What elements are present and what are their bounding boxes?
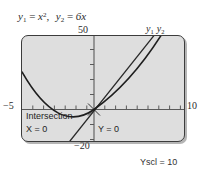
calculator-screen: Intersection X = 0 Y = 0 — [21, 35, 185, 142]
curve-y1 — [22, 36, 161, 117]
ymax-label: 50 — [78, 25, 88, 35]
x-value-readout: X = 0 — [26, 125, 47, 134]
y-value-readout: Y = 0 — [98, 125, 119, 134]
figure-container: y1 = x2, y2 = 6x 50 −20 −5 10 Yscl = 10 … — [0, 0, 204, 176]
y-axis-ticks — [90, 50, 94, 140]
xmin-label: −5 — [3, 101, 14, 111]
legend-y1-subscript: 1 — [150, 28, 153, 35]
y2-subscript: 2 — [61, 16, 65, 24]
legend-y2-subscript: 2 — [161, 28, 164, 35]
x-axis-ticks — [33, 106, 181, 110]
equals-sign-2: = — [67, 10, 73, 22]
equation-separator: , — [47, 10, 51, 22]
y1-subscript: 1 — [23, 16, 27, 24]
equations-caption: y1 = x2, y2 = 6x — [18, 11, 86, 24]
y2-expression: 6x — [76, 10, 86, 22]
intersection-readout: Intersection — [26, 112, 73, 121]
yscl-label: Yscl = 10 — [140, 158, 177, 167]
curve-legend: y1y2 — [146, 24, 164, 35]
equals-sign-1: = — [29, 10, 35, 22]
ymin-label: −20 — [74, 141, 90, 151]
xmax-label: 10 — [187, 101, 197, 111]
